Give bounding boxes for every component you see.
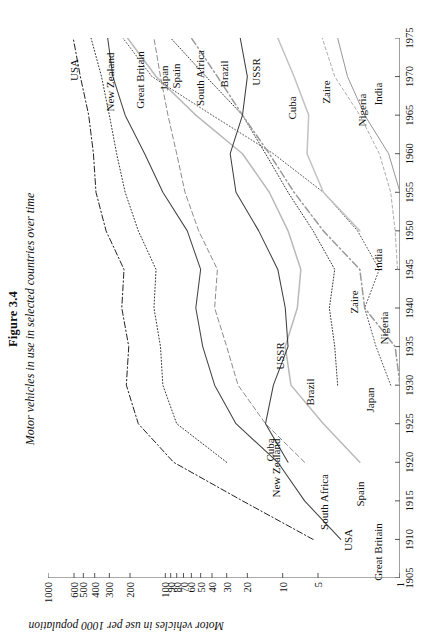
y-axis-tick-label: 40 xyxy=(207,582,218,593)
series-label-india-start: India xyxy=(372,249,384,272)
x-axis-tick-label: 1915 xyxy=(404,490,415,511)
series-label-japan-end: Japan xyxy=(158,65,170,90)
figure-caption-block: Figure 3.4 Motor vehicles in use in sele… xyxy=(6,24,38,614)
x-axis-tick-label: 1955 xyxy=(404,182,415,203)
x-axis-tick-label: 1905 xyxy=(404,568,415,589)
x-axis-tick-label: 1940 xyxy=(404,298,415,319)
y-axis-tick-label: 300 xyxy=(104,582,115,598)
series-label-great-britain-start: Great Britain xyxy=(372,523,384,581)
x-axis-tick-layer: 1905191019151920192519301935194019451950… xyxy=(404,38,424,578)
series-label-cuba-end: Cuba xyxy=(286,96,298,119)
series-label-brazil-start: Brazil xyxy=(304,379,316,406)
x-axis-tick-label: 1925 xyxy=(404,413,415,434)
series-label-ussr-start: USSR xyxy=(274,342,286,370)
y-axis-tick-label: 20 xyxy=(242,582,253,593)
x-axis-tick-label: 1960 xyxy=(404,143,415,164)
series-label-nigeria-start: Nigeria xyxy=(378,312,390,345)
series-label-brazil-end: Brazil xyxy=(218,61,230,88)
x-axis-tick-label: 1975 xyxy=(404,28,415,49)
x-axis-tick-label: 1920 xyxy=(404,452,415,473)
series-label-zaire-end: Zaire xyxy=(320,80,332,103)
series-label-cuba-start: Cuba xyxy=(264,438,276,461)
series-label-great-britain-end: Great Britain xyxy=(134,51,146,109)
y-axis-tick-label: 50 xyxy=(195,582,206,593)
y-axis-tick-label: 400 xyxy=(89,582,100,598)
figure-caption: Motor vehicles in use in selected countr… xyxy=(23,24,38,614)
y-axis-title: Motor vehicles in use per 1000 populatio… xyxy=(29,620,224,632)
chart-plot-area: USANew ZealandGreat BritainJapanSpainSou… xyxy=(48,38,400,578)
series-label-zaire-start: Zaire xyxy=(348,290,360,313)
x-axis-tick-label: 1935 xyxy=(404,336,415,357)
series-label-ussr-end: USSR xyxy=(250,58,262,86)
x-axis-tick-label: 1930 xyxy=(404,375,415,396)
series-label-nigeria-end: Nigeria xyxy=(356,94,368,127)
x-axis-tick-label: 1945 xyxy=(404,259,415,280)
series-label-south-africa-start: South Africa xyxy=(318,474,330,530)
x-axis-tick-label: 1970 xyxy=(404,66,415,87)
figure-page: Figure 3.4 Motor vehicles in use in sele… xyxy=(0,0,442,640)
y-axis-tick-label: 10 xyxy=(277,582,288,593)
series-label-south-africa-end: South Africa xyxy=(194,50,206,106)
y-axis-tick-label: 30 xyxy=(221,582,232,593)
series-label-japan-start: Japan xyxy=(364,387,376,412)
series-line-great-britain xyxy=(108,38,341,539)
y-axis-tick-label: 1000 xyxy=(43,582,54,603)
x-axis-tick-label: 1965 xyxy=(404,105,415,126)
series-label-spain-end: Spain xyxy=(170,63,182,88)
series-label-usa-start: USA xyxy=(342,529,354,551)
series-label-new-zealand-end: New Zealand xyxy=(104,53,116,112)
series-label-spain-start: Spain xyxy=(354,481,366,506)
series-line-cuba xyxy=(230,38,288,462)
series-line-zaire xyxy=(278,38,360,231)
y-axis-tick-label: 500 xyxy=(78,582,89,598)
x-axis-tick-label: 1950 xyxy=(404,220,415,241)
figure-container: Figure 3.4 Motor vehicles in use in sele… xyxy=(0,0,442,640)
y-axis-tick-label: 200 xyxy=(125,582,136,598)
series-label-usa-end: USA xyxy=(68,59,80,81)
x-axis-tick-label: 1910 xyxy=(404,529,415,550)
series-label-india-end: India xyxy=(372,83,384,106)
series-line-india xyxy=(338,38,400,192)
series-line-nigeria xyxy=(322,38,397,269)
figure-number: Figure 3.4 xyxy=(6,24,21,614)
y-axis-tick-label: 5 xyxy=(312,582,323,587)
